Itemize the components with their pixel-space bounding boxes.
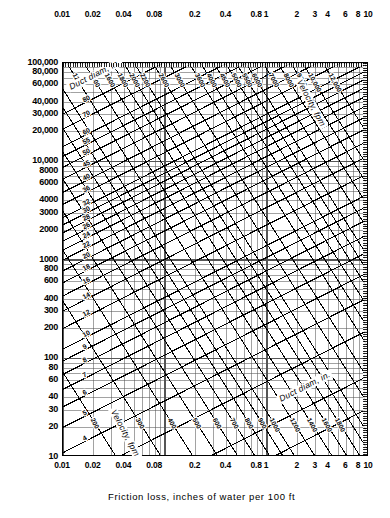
x-tick-top-3: 3 (312, 10, 317, 19)
velocity-label-1600: 1600 (321, 417, 334, 434)
x-tick-bottom-3: 3 (312, 461, 317, 470)
velocity-label-200: 200 (90, 417, 102, 430)
velocity-label-1600: 1600 (104, 72, 117, 89)
velocity-label-700: 700 (229, 417, 241, 430)
x-tick-bottom-4: 4 (325, 461, 330, 470)
y-tick-60000: 60,000 (0, 79, 58, 88)
duct-label-20: 20 (81, 250, 91, 260)
x-tick-bottom-10: 10 (363, 461, 372, 470)
x-tick-bottom-2: 2 (294, 461, 299, 470)
y-tick-20000: 20,000 (0, 126, 58, 135)
duct-label-18: 18 (81, 262, 91, 272)
duct-label-22: 22 (81, 239, 91, 249)
right-edge-hatch (363, 63, 367, 455)
velocity-label-4500: 4500 (219, 72, 232, 89)
x-tick-top-0.8: 0.8 (251, 10, 262, 19)
y-tick-80000: 80,000 (0, 67, 58, 76)
duct-label-10: 10 (81, 329, 91, 339)
velocity-label-7000: 7000 (268, 72, 281, 89)
velocity-label-1400: 1400 (306, 417, 319, 434)
y-tick-600: 600 (0, 276, 58, 285)
y-tick-2000: 2000 (0, 225, 58, 234)
y-tick-300: 300 (0, 306, 58, 315)
top-edge-hatch (63, 63, 367, 67)
x-tick-top-0.2: 0.2 (189, 10, 200, 19)
y-tick-4000: 4000 (0, 195, 58, 204)
duct-label-40: 40 (81, 172, 91, 182)
y-tick-30: 30 (0, 405, 58, 414)
y-tick-10000: 10,000 (0, 156, 58, 165)
x-tick-bottom-0.4: 0.4 (220, 461, 231, 470)
duct-label-16: 16 (81, 275, 91, 285)
y-tick-6000: 6000 (0, 178, 58, 187)
y-tick-10: 10 (0, 452, 58, 461)
y-tick-800: 800 (0, 264, 58, 273)
x-tick-bottom-1: 1 (264, 461, 269, 470)
x-tick-top-0.4: 0.4 (220, 10, 231, 19)
duct-label-55: 55 (81, 136, 91, 146)
x-tick-top-2: 2 (294, 10, 299, 19)
y-tick-200: 200 (0, 323, 58, 332)
velocity-label-500: 500 (191, 417, 203, 430)
x-tick-bottom-0.2: 0.2 (189, 461, 200, 470)
friction-loss-chart: 0.010.020.040.080.20.40.812346810 100,00… (0, 0, 390, 518)
x-tick-bottom-0.08: 0.08 (146, 461, 162, 470)
y-tick-80: 80 (0, 363, 58, 372)
x-axis-title: Friction loss, inches of water per 100 f… (108, 492, 295, 502)
x-tick-top-4: 4 (325, 10, 330, 19)
duct-label-80: 80 (81, 94, 91, 104)
y-tick-100: 100 (0, 353, 58, 362)
y-tick-40: 40 (0, 392, 58, 401)
duct-label-12: 12 (81, 308, 91, 318)
x-tick-top-0.01: 0.01 (54, 10, 70, 19)
y-tick-30000: 30,000 (0, 109, 58, 118)
y-tick-60: 60 (0, 375, 58, 384)
duct-label-50: 50 (81, 147, 91, 157)
x-tick-bottom-0.04: 0.04 (116, 461, 132, 470)
x-tick-bottom-0.8: 0.8 (251, 461, 262, 470)
x-tick-top-1: 1 (264, 10, 269, 19)
velocity-label-800: 800 (244, 417, 256, 430)
x-tick-top-10: 10 (363, 10, 372, 19)
y-tick-400: 400 (0, 294, 58, 303)
velocity-label-1200: 1200 (289, 417, 302, 434)
x-tick-bottom-0.01: 0.01 (54, 461, 70, 470)
velocity-label-2200: 2200 (139, 72, 152, 89)
velocity-label-4000: 4000 (206, 72, 219, 89)
x-tick-bottom-8: 8 (356, 461, 361, 470)
duct-label-36: 36 (81, 184, 91, 194)
duct-label-70: 70 (81, 109, 91, 119)
y-tick-3000: 3000 (0, 208, 58, 217)
x-tick-bottom-6: 6 (343, 461, 348, 470)
duct-label-14: 14 (81, 291, 91, 301)
x-tick-bottom-0.02: 0.02 (85, 461, 101, 470)
x-tick-top-0.02: 0.02 (85, 10, 101, 19)
y-tick-8000: 8000 (0, 166, 58, 175)
velocity-label-3000: 3000 (174, 72, 187, 89)
x-tick-top-0.04: 0.04 (116, 10, 132, 19)
duct-label-60: 60 (81, 126, 91, 136)
y-tick-40000: 40,000 (0, 97, 58, 106)
velocity-label-300: 300 (135, 417, 147, 430)
y-tick-20: 20 (0, 422, 58, 431)
x-tick-top-8: 8 (356, 10, 361, 19)
x-tick-top-6: 6 (343, 10, 348, 19)
x-tick-top-0.08: 0.08 (146, 10, 162, 19)
